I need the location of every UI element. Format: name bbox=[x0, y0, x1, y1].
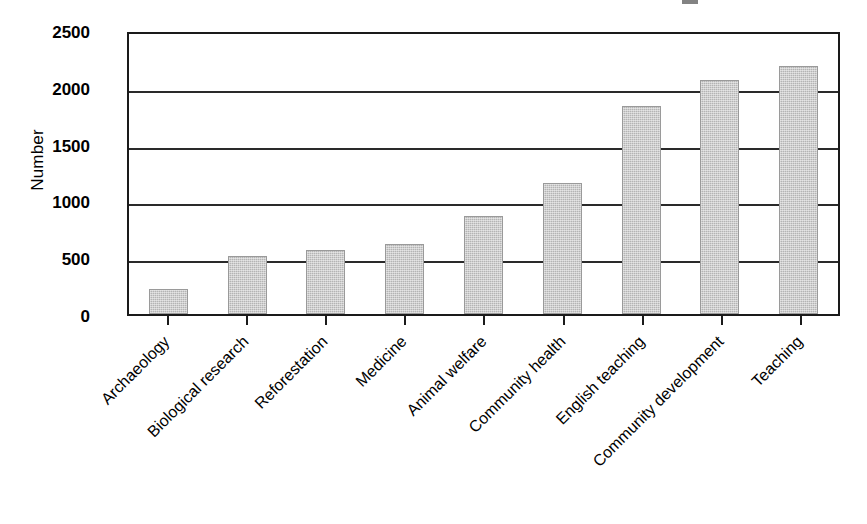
bar-slot bbox=[680, 34, 759, 314]
x-tick-slot bbox=[761, 316, 840, 326]
bar[interactable] bbox=[700, 80, 739, 314]
cropped-title-remnant bbox=[682, 0, 698, 4]
x-tick-slot bbox=[365, 316, 444, 326]
x-axis-label: Community development bbox=[291, 333, 728, 524]
bar[interactable] bbox=[779, 66, 818, 314]
x-tick-mark bbox=[483, 316, 485, 325]
x-tick-mark bbox=[325, 316, 327, 325]
bar[interactable] bbox=[385, 244, 424, 314]
bar-chart-figure: Number 2500 2000 1500 1000 500 0 Archaeo… bbox=[0, 0, 867, 524]
bar[interactable] bbox=[622, 106, 661, 314]
bar[interactable] bbox=[543, 183, 582, 314]
bar-slot bbox=[208, 34, 287, 314]
bar-slot bbox=[287, 34, 366, 314]
x-tick-mark bbox=[642, 316, 644, 325]
y-tick-label-1500: 1500 bbox=[28, 137, 90, 154]
bar[interactable] bbox=[306, 250, 345, 314]
y-tick-label-2500: 2500 bbox=[28, 24, 90, 41]
x-tick-mark bbox=[167, 316, 169, 325]
bar-series bbox=[129, 34, 838, 314]
x-axis-label: English teaching bbox=[211, 333, 648, 524]
x-axis-label: Community health bbox=[132, 333, 569, 524]
x-tick-mark bbox=[246, 316, 248, 325]
bar-slot bbox=[129, 34, 208, 314]
x-tick-slot bbox=[206, 316, 285, 326]
x-tick-mark bbox=[800, 316, 802, 325]
bar-slot bbox=[602, 34, 681, 314]
y-tick-label-1000: 1000 bbox=[28, 194, 90, 211]
x-axis-ticks bbox=[127, 316, 840, 326]
bar-slot bbox=[444, 34, 523, 314]
y-tick-label-0: 0 bbox=[28, 308, 90, 325]
bar-slot bbox=[759, 34, 838, 314]
x-tick-mark bbox=[404, 316, 406, 325]
plot-area bbox=[127, 32, 840, 316]
x-tick-slot bbox=[285, 316, 364, 326]
x-tick-slot bbox=[682, 316, 761, 326]
bar[interactable] bbox=[228, 256, 267, 314]
x-tick-mark bbox=[563, 316, 565, 325]
x-axis-label: Teaching bbox=[370, 333, 807, 524]
x-tick-slot bbox=[602, 316, 681, 326]
bar-slot bbox=[523, 34, 602, 314]
y-tick-label-500: 500 bbox=[28, 251, 90, 268]
x-axis-label: Animal welfare bbox=[53, 333, 490, 524]
bar[interactable] bbox=[464, 216, 503, 314]
x-tick-slot bbox=[127, 316, 206, 326]
bar[interactable] bbox=[149, 289, 188, 314]
bar-slot bbox=[365, 34, 444, 314]
x-tick-slot bbox=[444, 316, 523, 326]
x-tick-slot bbox=[523, 316, 602, 326]
x-tick-mark bbox=[721, 316, 723, 325]
y-tick-label-2000: 2000 bbox=[28, 80, 90, 97]
